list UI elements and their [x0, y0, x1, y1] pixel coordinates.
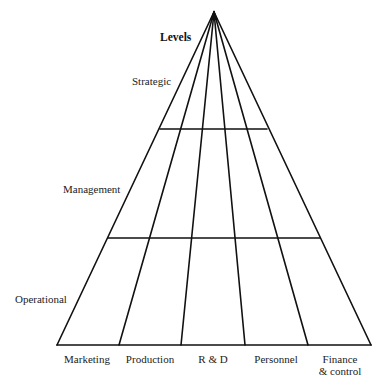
pyramid-diagram: Levels Strategic Management Operational … [0, 0, 390, 388]
function-label-finance-control: Finance & control [319, 353, 361, 377]
level-label-strategic: Strategic [132, 75, 171, 87]
pyramid-lines [0, 0, 390, 388]
division-line-1 [119, 12, 214, 345]
division-line-3 [214, 12, 245, 345]
function-label-marketing: Marketing [64, 353, 110, 365]
function-label-rnd: R & D [198, 353, 227, 365]
division-line-2 [181, 12, 214, 345]
level-label-management: Management [63, 183, 120, 195]
pyramid-edge-left [57, 12, 214, 345]
level-label-operational: Operational [15, 293, 67, 305]
function-label-production: Production [126, 353, 174, 365]
finance-line-1: Finance [319, 353, 361, 365]
function-label-personnel: Personnel [254, 353, 297, 365]
finance-line-2: & control [319, 365, 361, 377]
division-line-4 [214, 12, 308, 345]
levels-title: Levels [160, 31, 191, 43]
pyramid-edge-right [214, 12, 371, 345]
